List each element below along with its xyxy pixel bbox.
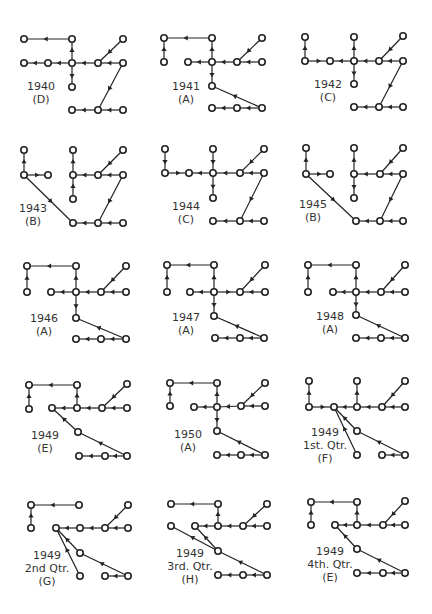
node-circle [354,428,360,434]
node-circle [308,499,314,505]
node-circle [354,522,360,528]
arrowhead-icon [391,522,395,527]
label-quarter: 4th. Qtr. [307,558,352,571]
arrowhead-icon [351,185,356,189]
node-circle [331,404,337,410]
node-circle [69,36,75,42]
node-circle [306,378,312,384]
node-circle [302,34,308,40]
node-circle [75,429,81,435]
node-circle [161,59,167,65]
node-circle [351,145,357,151]
arrowhead-icon [224,335,228,340]
node-circle [210,146,216,152]
arrowhead-icon [28,513,33,517]
arrowhead-icon [24,276,29,280]
node-circle [24,263,30,269]
arrowhead-icon [85,289,89,294]
node-circle [124,405,130,411]
node-circle [102,525,108,531]
node-circle [354,546,360,552]
node-circle [45,60,51,66]
arrowhead-icon [364,171,368,176]
arrowhead-icon [49,382,53,387]
arrowhead-icon [351,72,356,76]
node-circle [168,523,174,529]
arrowhead-icon [167,391,172,395]
arrowhead-icon [65,525,69,530]
arrowhead-icon [388,218,392,223]
arrowhead-icon [69,74,74,78]
node-circle [210,218,216,224]
node-circle [214,428,220,434]
node-circle [125,502,131,508]
node-circle [261,335,267,341]
arrowhead-icon [176,170,180,175]
node-circle [70,220,76,226]
node-circle [353,289,359,295]
label-year: 1949 [167,547,212,560]
arrowhead-icon [214,392,219,396]
arrowhead-icon [89,453,93,458]
node-circle [262,403,268,409]
node-circle [95,107,101,113]
arrowhead-icon [321,404,325,409]
arrowhead-icon [390,452,394,457]
node-circle [74,382,80,388]
node-circle [237,170,243,176]
arrowhead-icon [249,218,253,223]
arrowhead-icon [197,59,201,64]
label-year: 1942 [314,78,342,91]
node-circle [354,452,360,458]
arrowhead-icon [249,289,253,294]
label-quarter: 3rd. Qtr. [167,560,212,573]
arrowhead-icon [203,523,207,528]
arrowhead-icon [351,158,356,162]
node-circle [377,171,383,177]
arrowhead-icon [365,289,369,294]
label-year: 1946 [30,312,58,325]
label-1943: 1943 (B) [19,202,47,228]
arrowhead-icon [354,391,359,395]
arrowhead-icon [305,275,310,279]
node-circle [402,498,408,504]
node-circle [264,501,270,507]
node-circle [354,570,360,576]
node-circle [327,171,333,177]
arrowhead-icon [190,501,194,506]
arrowhead-icon [107,107,111,112]
node-circle [380,570,386,576]
arrowhead-icon [202,404,206,409]
node-circle [168,501,174,507]
label-code: (H) [167,573,212,586]
node-circle [73,315,79,321]
label-code: (G) [25,575,69,588]
node-circle [69,84,75,90]
arrowhead-icon [221,59,225,64]
node-circle [187,289,193,295]
node-circle [400,104,406,110]
node-circle [125,573,131,579]
label-code: (C) [172,213,200,226]
node-circle [120,172,126,178]
node-circle [124,381,130,387]
edge-line [380,174,403,221]
label-code: (E) [31,442,59,455]
node-circle [120,147,126,153]
arrowhead-icon [250,403,254,408]
label-year: 1949 [31,429,59,442]
node-circle [264,572,270,578]
arrowhead-icon [57,60,61,65]
label-1949-q1: 1949 1st. Qtr. (F) [303,426,347,465]
label-1946: 1946 (A) [30,312,58,338]
arrowhead-icon [328,262,332,267]
node-circle [303,145,309,151]
arrowhead-icon [363,104,367,109]
node-circle [400,218,406,224]
arrowhead-icon [210,160,215,164]
node-circle [302,58,308,64]
arrowhead-icon [82,107,86,112]
node-circle [95,220,101,226]
arrowhead-icon [221,105,225,110]
label-1949: 1949 (E) [31,429,59,455]
